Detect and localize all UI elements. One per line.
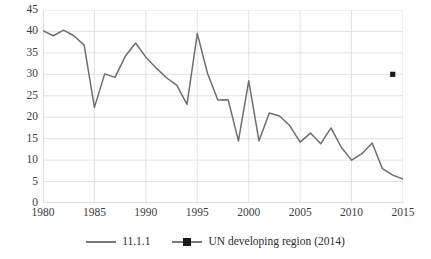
data-markers [390, 72, 395, 77]
x-tick-label: 2000 [224, 207, 274, 219]
plot-svg [43, 10, 403, 203]
x-tick-label: 2005 [275, 207, 325, 219]
x-tick-label: 1990 [121, 207, 171, 219]
line-chart: 051015202530354045 198019851990199520002… [0, 0, 431, 259]
x-axis: 19801985199019952000200520102015 [0, 207, 431, 225]
x-tick-label: 1980 [18, 207, 68, 219]
y-tick-label: 25 [4, 90, 38, 102]
legend-item-series-2[interactable]: UN developing region (2014) [172, 236, 344, 248]
chart-legend: 11.1.1 UN developing region (2014) [0, 231, 431, 253]
x-tick-label: 2015 [378, 207, 428, 219]
plot-area [43, 10, 403, 203]
y-tick-label: 20 [4, 111, 38, 123]
y-tick-label: 45 [4, 4, 38, 16]
y-tick-label: 30 [4, 68, 38, 80]
axis-lines [43, 10, 403, 203]
legend-line-marker-icon [172, 237, 202, 247]
x-tick-label: 2010 [327, 207, 377, 219]
x-tick-label: 1995 [172, 207, 222, 219]
y-tick-label: 40 [4, 25, 38, 37]
x-tick-label: 1985 [69, 207, 119, 219]
legend-item-series-1[interactable]: 11.1.1 [86, 236, 150, 248]
y-tick-label: 5 [4, 176, 38, 188]
y-tick-label: 15 [4, 133, 38, 145]
legend-label-series-1: 11.1.1 [122, 236, 150, 248]
legend-label-series-2: UN developing region (2014) [208, 236, 344, 248]
legend-line-icon [86, 237, 116, 247]
marker-un-developing-region [390, 72, 395, 77]
y-tick-label: 10 [4, 154, 38, 166]
gridlines [43, 10, 403, 203]
y-tick-label: 35 [4, 47, 38, 59]
